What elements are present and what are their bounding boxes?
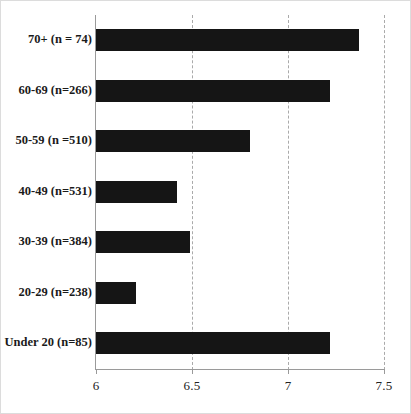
x-tick-mark-6: [96, 369, 97, 374]
x-tick-label-7.5: 7.5: [364, 378, 404, 394]
category-label: 70+ (n = 74): [0, 32, 92, 47]
x-tick-label-7: 7: [268, 378, 308, 394]
x-tick-mark-6.5: [192, 369, 193, 374]
category-label: 50-59 (n =510): [0, 133, 92, 148]
bar-row: 60-69 (n=266): [1, 66, 411, 116]
bar-row: 50-59 (n =510): [1, 116, 411, 166]
bar-row: 70+ (n = 74): [1, 15, 411, 65]
x-tick-label-6: 6: [76, 378, 116, 394]
bar-chart-figure: 66.577.5 70+ (n = 74)60-69 (n=266)50-59 …: [0, 0, 411, 414]
category-label: 40-49 (n=531): [0, 184, 92, 199]
x-axis-line: [95, 369, 385, 370]
bar: [96, 29, 359, 51]
x-tick-label-6.5: 6.5: [172, 378, 212, 394]
bar: [96, 130, 250, 152]
bar: [96, 80, 330, 102]
x-tick-mark-7: [288, 369, 289, 374]
bar-row: 30-39 (n=384): [1, 217, 411, 267]
category-label: 60-69 (n=266): [0, 83, 92, 98]
bar-row: 20-29 (n=238): [1, 268, 411, 318]
bar: [96, 282, 136, 304]
category-label: 20-29 (n=238): [0, 285, 92, 300]
category-label: Under 20 (n=85): [0, 335, 92, 350]
x-tick-mark-7.5: [384, 369, 385, 374]
bar: [96, 181, 177, 203]
category-label: 30-39 (n=384): [0, 234, 92, 249]
bar-row: 40-49 (n=531): [1, 167, 411, 217]
bar: [96, 231, 190, 253]
bar: [96, 332, 330, 354]
bar-row: Under 20 (n=85): [1, 318, 411, 368]
